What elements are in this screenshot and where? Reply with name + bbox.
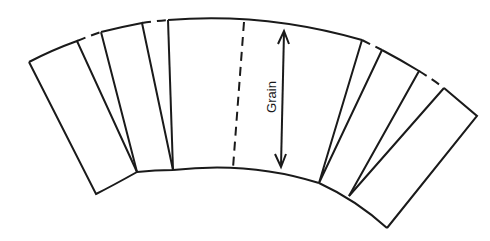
- grain-label: Grain: [264, 81, 279, 113]
- left-inner-panel: [101, 23, 173, 172]
- center-fold-line: [233, 22, 244, 168]
- pattern-diagram-svg: Grain: [0, 0, 490, 241]
- pattern-diagram: Grain: [0, 0, 490, 241]
- grain-arrow: Grain: [264, 31, 289, 167]
- left-gap-connectors: [77, 20, 168, 41]
- left-outer-panel: [29, 41, 137, 194]
